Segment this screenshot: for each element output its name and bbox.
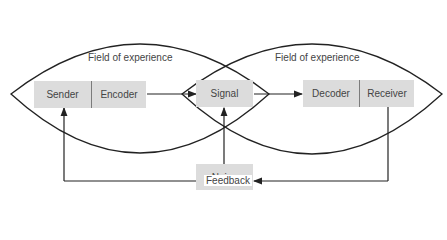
sender-box: Sender (34, 81, 91, 108)
signal-box: Signal (196, 80, 253, 107)
receiver-field-label: Field of experience (275, 52, 360, 63)
feedback-label: Feedback (204, 175, 252, 186)
sender-field-label: Field of experience (88, 52, 173, 63)
encoder-box: Encoder (92, 81, 146, 108)
decoder-box: Decoder (303, 80, 359, 107)
receiver-box: Receiver (360, 80, 414, 107)
